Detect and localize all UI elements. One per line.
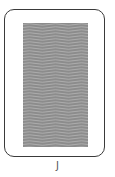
wavy-lines-icon: [23, 23, 88, 147]
card-back-pattern: [23, 23, 88, 147]
playing-card-back[interactable]: [4, 9, 105, 157]
card-label: J: [0, 160, 115, 171]
